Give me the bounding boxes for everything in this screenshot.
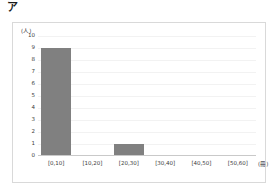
y-axis-tick-label: 4 — [32, 105, 36, 111]
bar — [41, 48, 71, 156]
figure-label: ア — [7, 1, 18, 15]
chart-inner: (人) 109876543210 [0,10][10,20][20,30][30… — [13, 23, 265, 182]
y-axis-tick-label: 3 — [32, 117, 36, 123]
y-axis-tick-label: 1 — [32, 141, 36, 147]
bar-slot — [38, 36, 74, 156]
y-axis-tick-label: 6 — [32, 81, 36, 87]
x-axis-tick-label: [50,60] — [220, 160, 256, 166]
y-axis-tick-label: 7 — [32, 69, 36, 75]
bar-slot — [147, 36, 183, 156]
x-axis-tick-label: [40,50] — [183, 160, 219, 166]
y-axis-tick-label: 8 — [32, 57, 36, 63]
x-axis-line — [38, 155, 256, 156]
bar-slot — [183, 36, 219, 156]
y-axis-tick-label: 2 — [32, 129, 36, 135]
y-axis-tick-label: 5 — [32, 93, 36, 99]
plot-area: 109876543210 — [38, 36, 256, 156]
chart-frame: (人) 109876543210 [0,10][10,20][20,30][30… — [12, 22, 266, 183]
x-axis-tick-label: [0,10] — [38, 160, 74, 166]
x-axis-unit-label: (冊) — [258, 160, 268, 168]
x-axis-tick-label: [20,30] — [111, 160, 147, 166]
y-axis-tick-label: 10 — [28, 33, 35, 39]
x-axis-tick-label: [30,40] — [147, 160, 183, 166]
bar-slot — [220, 36, 256, 156]
bar-slot — [111, 36, 147, 156]
bar-slot — [74, 36, 110, 156]
x-axis-tick-label: [10,20] — [74, 160, 110, 166]
y-axis-tick-label: 0 — [32, 153, 36, 159]
x-axis-tick-labels: [0,10][10,20][20,30][30,40][40,50][50,60… — [38, 160, 256, 166]
y-axis-tick-label: 9 — [32, 45, 36, 51]
bars-layer — [38, 36, 256, 156]
